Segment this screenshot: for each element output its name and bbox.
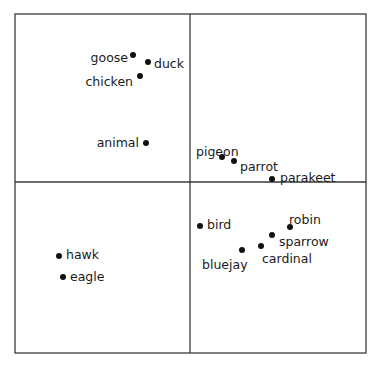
point-marker — [239, 247, 245, 253]
data-point-hawk: hawk — [56, 247, 100, 262]
point-marker — [60, 274, 66, 280]
point-label: goose — [91, 50, 129, 65]
data-point-chicken: chicken — [85, 73, 143, 89]
point-label: bird — [207, 217, 231, 232]
data-point-bird: bird — [197, 217, 231, 232]
point-marker — [143, 140, 149, 146]
data-point-goose: goose — [91, 50, 136, 65]
data-point-animal: animal — [97, 135, 149, 150]
data-point-eagle: eagle — [60, 269, 105, 284]
data-point-bluejay: bluejay — [202, 247, 248, 272]
point-label: parakeet — [280, 170, 336, 185]
point-label: bluejay — [202, 257, 248, 272]
point-marker — [145, 59, 151, 65]
data-point-robin: robin — [287, 212, 321, 230]
point-label: chicken — [85, 74, 133, 89]
point-label: eagle — [70, 269, 105, 284]
data-points: gooseduckchickenanimalpigeonparrotparake… — [56, 50, 336, 284]
data-point-sparrow: sparrow — [269, 232, 329, 249]
data-point-parrot: parrot — [231, 158, 278, 174]
point-label: sparrow — [279, 234, 329, 249]
data-point-duck: duck — [145, 56, 185, 71]
point-label: hawk — [66, 247, 100, 262]
point-label: cardinal — [262, 251, 312, 266]
point-marker — [258, 243, 264, 249]
point-label: pigeon — [196, 144, 239, 159]
concept-map-plot: gooseduckchickenanimalpigeonparrotparake… — [0, 0, 381, 368]
data-point-parakeet: parakeet — [269, 170, 336, 185]
point-label: duck — [154, 56, 185, 71]
point-marker — [197, 223, 203, 229]
data-point-pigeon: pigeon — [196, 144, 239, 160]
point-marker — [137, 73, 143, 79]
point-marker — [231, 158, 237, 164]
point-marker — [269, 232, 275, 238]
point-marker — [130, 52, 136, 58]
point-label: parrot — [240, 159, 278, 174]
point-marker — [56, 253, 62, 259]
point-label: robin — [289, 212, 321, 227]
point-label: animal — [97, 135, 139, 150]
point-marker — [269, 176, 275, 182]
